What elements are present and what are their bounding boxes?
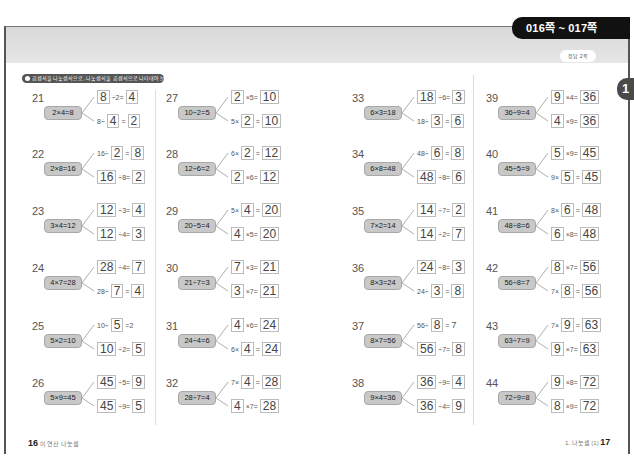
answer-box[interactable]: 10 <box>262 114 281 128</box>
answer-box[interactable]: 6 <box>452 170 465 184</box>
answer-box[interactable]: 12 <box>262 146 281 160</box>
answer-box[interactable]: 12 <box>97 203 116 217</box>
answer-box[interactable]: 6 <box>431 146 444 160</box>
answer-box[interactable]: 6 <box>551 227 564 241</box>
answer-box[interactable]: 10 <box>97 342 116 356</box>
answer-box[interactable]: 20 <box>262 203 281 217</box>
answer-box[interactable]: 36 <box>580 114 599 128</box>
answer-box[interactable]: 24 <box>417 260 436 274</box>
answer-box[interactable]: 2 <box>241 146 254 160</box>
answer-box[interactable]: 8 <box>431 318 444 332</box>
answer-box[interactable]: 4 <box>231 227 244 241</box>
answer-box[interactable]: 2 <box>452 203 465 217</box>
derived-equation-top: 6×2=12 <box>230 146 282 160</box>
answer-box[interactable]: 12 <box>97 227 116 241</box>
answer-box[interactable]: 8 <box>551 399 564 413</box>
equation-text: ×7= <box>566 346 578 353</box>
answer-box[interactable]: 4 <box>231 399 244 413</box>
answer-box[interactable]: 45 <box>97 375 116 389</box>
answer-box[interactable]: 45 <box>97 399 116 413</box>
answer-box[interactable]: 2 <box>111 146 124 160</box>
answer-box[interactable]: 24 <box>262 342 281 356</box>
answer-box[interactable]: 9 <box>561 318 574 332</box>
answer-box[interactable]: 72 <box>580 375 599 389</box>
answer-box[interactable]: 14 <box>417 227 436 241</box>
equation-text: = <box>576 207 580 214</box>
equation-text: ×9= <box>566 403 578 410</box>
answer-box[interactable]: 36 <box>417 375 436 389</box>
answer-box[interactable]: 3 <box>431 114 444 128</box>
answer-box[interactable]: 2 <box>132 170 145 184</box>
answer-box[interactable]: 3 <box>452 90 465 104</box>
answer-box[interactable]: 8 <box>451 146 464 160</box>
answer-box[interactable]: 48 <box>582 203 601 217</box>
answer-box[interactable]: 21 <box>260 260 279 274</box>
answer-box[interactable]: 56 <box>417 342 436 356</box>
answer-box[interactable]: 9 <box>551 375 564 389</box>
answer-box[interactable]: 36 <box>417 399 436 413</box>
answer-box[interactable]: 45 <box>580 146 599 160</box>
answer-box[interactable]: 8 <box>97 90 110 104</box>
answer-box[interactable]: 5 <box>551 146 564 160</box>
answer-box[interactable]: 3 <box>132 227 145 241</box>
answer-box[interactable]: 8 <box>451 284 464 298</box>
problem-number: 27 <box>166 92 178 104</box>
answer-box[interactable]: 3 <box>452 260 465 274</box>
answer-box[interactable]: 7 <box>111 284 124 298</box>
answer-box[interactable]: 12 <box>260 170 279 184</box>
answer-box[interactable]: 8 <box>131 146 144 160</box>
answer-box[interactable]: 3 <box>431 284 444 298</box>
answer-box[interactable]: 8 <box>561 284 574 298</box>
answer-box[interactable]: 45 <box>582 170 601 184</box>
derived-equation-bottom: 6×8=48 <box>550 227 600 241</box>
answer-box[interactable]: 9 <box>452 399 465 413</box>
answer-box[interactable]: 7 <box>132 260 145 274</box>
answer-box[interactable]: 4 <box>131 284 144 298</box>
answer-box[interactable]: 4 <box>231 318 244 332</box>
answer-box[interactable]: 9 <box>551 342 564 356</box>
answer-box[interactable]: 63 <box>580 342 599 356</box>
answer-box[interactable]: 4 <box>551 114 564 128</box>
answer-box[interactable]: 28 <box>260 399 279 413</box>
answer-box[interactable]: 56 <box>580 260 599 274</box>
answer-box[interactable]: 21 <box>260 284 279 298</box>
answer-box[interactable]: 3 <box>231 284 244 298</box>
answer-box[interactable]: 2 <box>231 170 244 184</box>
answer-box[interactable]: 5 <box>561 170 574 184</box>
answer-box[interactable]: 4 <box>107 114 120 128</box>
answer-box[interactable]: 28 <box>97 260 116 274</box>
answer-box[interactable]: 16 <box>97 170 116 184</box>
answer-box[interactable]: 2 <box>241 114 254 128</box>
answer-box[interactable]: 63 <box>582 318 601 332</box>
answer-box[interactable]: 18 <box>417 90 436 104</box>
answer-box[interactable]: 4 <box>132 203 145 217</box>
answer-box[interactable]: 36 <box>580 90 599 104</box>
answer-box[interactable]: 5 <box>132 399 145 413</box>
answer-box[interactable]: 5 <box>111 318 124 332</box>
answer-box[interactable]: 6 <box>451 114 464 128</box>
answer-box[interactable]: 9 <box>132 375 145 389</box>
answer-box[interactable]: 7 <box>452 227 465 241</box>
answer-box[interactable]: 2 <box>231 90 244 104</box>
answer-box[interactable]: 10 <box>260 90 279 104</box>
answer-box[interactable]: 8 <box>452 342 465 356</box>
answer-box[interactable]: 20 <box>260 227 279 241</box>
answer-box[interactable]: 4 <box>241 375 254 389</box>
answer-box[interactable]: 6 <box>561 203 574 217</box>
answer-box[interactable]: 48 <box>417 170 436 184</box>
answer-box[interactable]: 4 <box>241 203 254 217</box>
answer-box[interactable]: 4 <box>241 342 254 356</box>
answer-box[interactable]: 8 <box>551 260 564 274</box>
answer-box[interactable]: 7 <box>231 260 244 274</box>
answer-box[interactable]: 9 <box>551 90 564 104</box>
answer-box[interactable]: 48 <box>580 227 599 241</box>
answer-box[interactable]: 28 <box>262 375 281 389</box>
answer-box[interactable]: 24 <box>260 318 279 332</box>
answer-box[interactable]: 72 <box>580 399 599 413</box>
answer-box[interactable]: 56 <box>582 284 601 298</box>
answer-box[interactable]: 4 <box>452 375 465 389</box>
answer-box[interactable]: 4 <box>126 90 139 104</box>
answer-box[interactable]: 5 <box>132 342 145 356</box>
answer-box[interactable]: 14 <box>417 203 436 217</box>
answer-box[interactable]: 2 <box>128 114 141 128</box>
